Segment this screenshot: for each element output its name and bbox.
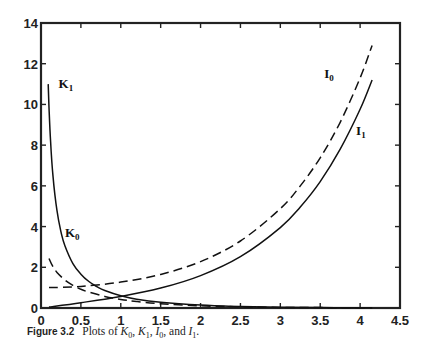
plot-axes [41,23,400,308]
x-tick-label: 2.5 [231,313,249,325]
series-labels: K1K0I0I1 [59,66,367,242]
x-tick-label: 1.5 [152,313,170,325]
y-tick-label: 10 [24,97,38,112]
curve-i0 [49,45,372,287]
x-tick-label: 4 [356,313,364,325]
label-i0: I0 [324,66,334,83]
x-tick-label: 0.5 [72,313,90,325]
caption-text: Plots of K0, K1, I0, and I1. [82,325,199,337]
y-tick-label: 6 [31,179,38,194]
figure-number: Figure 3.2 [27,326,74,337]
figure-caption: Figure 3.2Plots of K0, K1, I0, and I1. [27,325,199,340]
curve-i1 [49,80,372,307]
y-tick-label: 14 [24,16,39,31]
label-k1: K1 [59,76,74,93]
y-tick-label: 2 [31,260,38,275]
curve-k1 [48,84,372,308]
x-tick-label: 0 [37,313,44,325]
x-tick-label: 2 [197,313,204,325]
x-tick-label: 1 [117,313,124,325]
label-k0: K0 [65,225,80,242]
plot-frame [41,23,400,308]
axis-ticks: 00.511.522.533.544.502468101214 [24,16,410,325]
y-tick-label: 12 [24,57,38,72]
y-tick-label: 4 [31,220,39,235]
x-tick-label: 4.5 [391,313,409,325]
label-i1: I1 [356,123,366,140]
y-tick-label: 0 [31,301,38,316]
y-tick-label: 8 [31,138,38,153]
plot-curves [48,45,372,307]
bessel-chart: 00.511.522.533.544.502468101214 K1K0I0I1 [0,0,427,325]
x-tick-label: 3 [277,313,284,325]
x-tick-label: 3.5 [311,313,329,325]
